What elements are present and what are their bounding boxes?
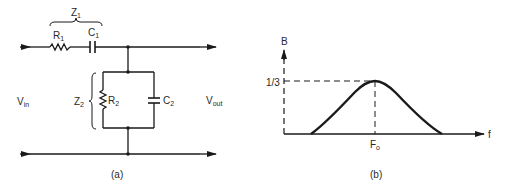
peak-frequency-label: Fo	[370, 139, 380, 151]
x-axis-label: f	[488, 129, 491, 140]
top-wire	[20, 41, 216, 53]
y-axis-label: B	[281, 36, 288, 47]
response-curve	[311, 81, 442, 134]
z1-brace	[50, 18, 102, 26]
vout-label: Vout	[206, 95, 222, 107]
z2-brace	[89, 73, 96, 129]
r2-label: R2	[108, 95, 119, 107]
circuit-diagram	[20, 18, 216, 156]
peak-value-label: 1/3	[266, 77, 280, 88]
capacitor-c1-icon	[90, 41, 95, 53]
z1-label: Z1	[71, 7, 81, 19]
graph-labels: B f 1/3 Fo (b)	[266, 36, 491, 180]
capacitor-c2-icon	[148, 98, 160, 103]
resistor-r1-icon	[50, 44, 70, 50]
r1-label: R1	[53, 30, 64, 42]
c2-label: C2	[163, 95, 174, 107]
vin-label: Vin	[17, 96, 29, 108]
caption-a: (a)	[111, 169, 123, 180]
caption-b: (b)	[370, 169, 382, 180]
frequency-response-graph	[284, 50, 484, 134]
resistor-r2-icon	[100, 90, 106, 109]
c1-label: C1	[88, 27, 99, 39]
figure: Z1 R1 C1 Z2 R2 C2 Vin Vout (a) B f 1/3 F…	[0, 0, 507, 190]
z2-label: Z2	[74, 96, 84, 108]
